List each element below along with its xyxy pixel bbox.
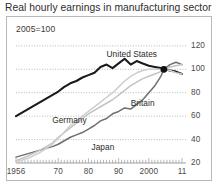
y-tick-label-60: 60: [191, 111, 200, 120]
x-tick-label-11: 11: [168, 167, 196, 176]
y-tick-label-20: 20: [191, 158, 200, 167]
x-tick-label-90: 90: [105, 167, 133, 176]
series-label-germany: Germany: [52, 115, 86, 125]
x-tick-label-2000: 2000: [135, 167, 163, 176]
y-tick-label-80: 80: [191, 88, 200, 97]
series-label-united-states: United States: [107, 49, 157, 59]
y-tick-label-40: 40: [191, 135, 200, 144]
chart-figure: Real hourly earnings in manufacturing se…: [0, 0, 220, 193]
base-year-marker: [160, 66, 167, 73]
y-tick-label-100: 100: [191, 64, 205, 73]
x-tick-label-70: 70: [44, 167, 72, 176]
x-tick-label-1956: 1956: [2, 167, 30, 176]
plot-canvas: [0, 0, 220, 193]
base-year-dot: [160, 66, 167, 73]
x-axis-ticks: [16, 158, 182, 163]
y-tick-label-120: 120: [191, 41, 205, 50]
gridlines-group: [16, 46, 186, 140]
series-label-britain: Britain: [131, 98, 155, 108]
x-tick-label-80: 80: [74, 167, 102, 176]
series-label-japan: Japan: [91, 142, 114, 152]
